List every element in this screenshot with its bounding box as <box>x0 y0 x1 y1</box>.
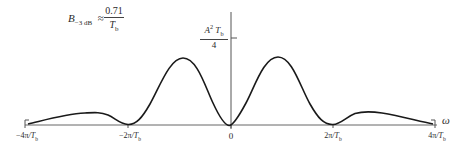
approx-symbol: ≈ <box>98 12 104 24</box>
bandwidth-label: B−3 dB ≈ <box>68 13 104 27</box>
x-tick-label-zero: 0 <box>229 132 234 141</box>
x-axis-variable: ω <box>442 115 450 126</box>
bandwidth-symbol: B <box>68 12 75 24</box>
bandwidth-numerator: 0.71 <box>104 5 124 16</box>
x-tick-label-2pi: 2π/Tb <box>324 132 342 142</box>
peak-value-label: A2 Tb 4 <box>200 24 228 51</box>
bandwidth-denominator: Tb <box>104 19 124 34</box>
peak-numerator: A2 Tb <box>200 24 228 38</box>
peak-denominator: 4 <box>200 41 228 51</box>
x-tick-label-neg2pi: −2π/Tb <box>119 132 141 142</box>
bandwidth-fraction: 0.71 Tb <box>104 5 124 34</box>
x-tick-label-4pi: 4π/Tb <box>428 132 446 142</box>
x-tick-label-neg4pi: −4π/Tb <box>16 132 38 142</box>
fraction-bar <box>104 17 124 18</box>
bandwidth-subscript: −3 dB <box>75 19 92 27</box>
